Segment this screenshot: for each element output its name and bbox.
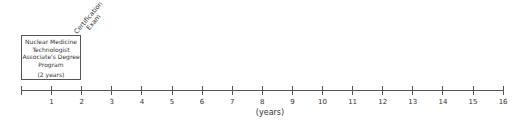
axis-tick [442, 86, 443, 95]
axis-tick [352, 86, 353, 95]
tick-label: 5 [170, 98, 174, 106]
tick-label: 10 [318, 98, 327, 106]
tick-label: 14 [438, 98, 447, 106]
axis-tick [503, 86, 504, 95]
axis-tick [172, 86, 173, 95]
program-line-2: Technologist [22, 46, 80, 54]
program-duration: (2 years) [22, 71, 80, 79]
tick-label: 8 [260, 98, 264, 106]
tick-label: 9 [290, 98, 294, 106]
tick-label: 13 [408, 98, 417, 106]
tick-label: 1 [49, 98, 53, 106]
tick-label: 3 [110, 98, 114, 106]
tick-label: 6 [200, 98, 204, 106]
axis-tick [292, 86, 293, 95]
axis-tick [382, 86, 383, 95]
program-line-1: Nuclear Medicine [22, 38, 80, 46]
axis-tick [51, 86, 52, 95]
axis-tick [322, 86, 323, 95]
program-line-4: Program [22, 61, 80, 69]
tick-label: 16 [499, 98, 508, 106]
axis-unit-label: (years) [256, 108, 284, 117]
axis-tick [262, 86, 263, 95]
certification-exam-label: Certification Exam [73, 1, 109, 40]
axis-tick [232, 86, 233, 95]
tick-label: 4 [140, 98, 144, 106]
tick-label: 7 [230, 98, 234, 106]
program-box: Nuclear Medicine Technologist Associate'… [21, 35, 81, 80]
axis-tick [81, 86, 82, 95]
program-line-3: Associate's Degree [22, 53, 80, 61]
axis-tick [21, 86, 22, 95]
tick-label: 15 [469, 98, 478, 106]
axis-tick [412, 86, 413, 95]
axis-tick [473, 86, 474, 95]
axis-tick [141, 86, 142, 95]
tick-label: 12 [378, 98, 387, 106]
tick-label: 11 [348, 98, 357, 106]
axis-tick [202, 86, 203, 95]
axis-tick [111, 86, 112, 95]
tick-label: 2 [79, 98, 83, 106]
